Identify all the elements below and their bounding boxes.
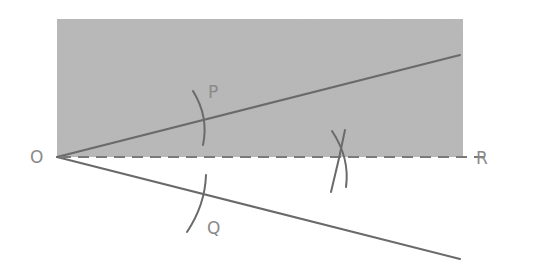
label-Q: Q (207, 218, 220, 238)
shaded-region (57, 19, 463, 157)
label-P: P (208, 82, 218, 102)
lower-ray (57, 157, 460, 259)
angle-bisector-diagram: O P Q R (0, 0, 549, 277)
label-O: O (30, 147, 43, 167)
label-R: R (476, 148, 488, 168)
arc-at-Q (187, 175, 206, 232)
